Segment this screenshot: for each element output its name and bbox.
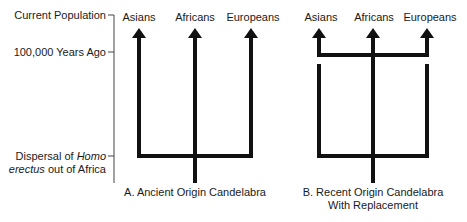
diagram-b-tree bbox=[319, 36, 427, 183]
candelabra-diagrams bbox=[0, 0, 467, 222]
diagram-a-tree bbox=[139, 36, 251, 183]
diagram-b-arrowheads bbox=[312, 28, 434, 38]
time-axis bbox=[108, 15, 114, 183]
diagram-a-arrowheads bbox=[132, 28, 258, 38]
